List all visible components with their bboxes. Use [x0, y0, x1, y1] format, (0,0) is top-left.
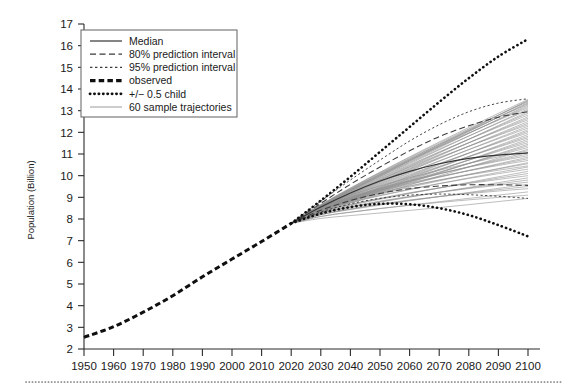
x-tick-label: 1990: [190, 360, 216, 372]
x-axis-group: 1950196019701980199020002010202020302040…: [71, 349, 541, 372]
y-tick-label: 7: [67, 235, 73, 247]
y-tick-label: 15: [60, 62, 73, 74]
x-tick-label: 2020: [278, 360, 304, 372]
x-tick-label: 2000: [219, 360, 245, 372]
x-tick-label: 1980: [160, 360, 186, 372]
x-tick-label: 2090: [486, 360, 512, 372]
legend-label-pi80: 80% prediction interval: [129, 48, 235, 60]
legend: Median80% prediction interval95% predict…: [81, 30, 237, 117]
y-tick-label: 12: [60, 127, 73, 139]
x-axis-tick-labels: 1950196019701980199020002010202020302040…: [71, 360, 541, 372]
x-tick-label: 2040: [338, 360, 364, 372]
y-tick-label: 4: [67, 300, 74, 312]
chart-svg: 234567891011121314151617 195019601970198…: [0, 0, 565, 391]
y-tick-label: 11: [61, 148, 73, 160]
x-tick-label: 2030: [308, 360, 334, 372]
y-axis-group: 234567891011121314151617: [60, 18, 84, 355]
x-tick-label: 1960: [101, 360, 127, 372]
x-tick-label: 1970: [130, 360, 156, 372]
y-tick-label: 2: [67, 343, 73, 355]
y-tick-label: 13: [60, 105, 73, 117]
y-axis-title: Population (Billion): [25, 160, 36, 239]
legend-label-trajectories: 60 sample trajectories: [129, 101, 232, 113]
legend-label-observed: observed: [129, 74, 172, 86]
x-tick-label: 2100: [515, 360, 541, 372]
legend-label-pi95: 95% prediction interval: [129, 61, 235, 73]
y-tick-label: 9: [67, 192, 73, 204]
y-tick-label: 14: [60, 83, 73, 95]
x-tick-label: 2050: [367, 360, 393, 372]
y-tick-label: 16: [60, 40, 73, 52]
y-tick-label: 5: [67, 278, 73, 290]
legend-label-median: Median: [129, 35, 164, 47]
observed-line: [84, 223, 291, 337]
y-axis-tick-labels: 234567891011121314151617: [60, 18, 73, 355]
x-tick-label: 2080: [456, 360, 482, 372]
y-tick-label: 3: [67, 322, 73, 334]
population-projection-chart: 234567891011121314151617 195019601970198…: [0, 0, 565, 391]
x-tick-label: 2060: [397, 360, 423, 372]
y-tick-label: 17: [60, 18, 73, 30]
x-tick-label: 2070: [426, 360, 452, 372]
y-tick-label: 8: [67, 213, 73, 225]
y-tick-label: 6: [67, 257, 73, 269]
legend-label-halfchild: +/− 0.5 child: [129, 88, 186, 100]
x-axis-ticks: [84, 349, 528, 356]
y-tick-label: 10: [60, 170, 73, 182]
x-tick-label: 2010: [249, 360, 275, 372]
x-tick-label: 1950: [71, 360, 97, 372]
